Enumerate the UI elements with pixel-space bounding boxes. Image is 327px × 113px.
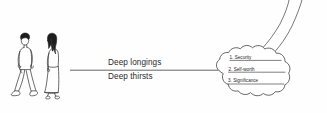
cloud-item-significance: 3. Significance (228, 78, 258, 83)
woman-waist (48, 66, 58, 67)
cloud-item-security: 1. Security (230, 55, 252, 60)
woman-leg-back (47, 93, 48, 96)
man-hand-front (31, 65, 34, 68)
man-shoe-front (30, 91, 38, 96)
man-head (21, 39, 29, 46)
man-leg-back-2 (19, 70, 25, 91)
diagram-canvas: Deep longings Deep thirsts 1. Security 2… (0, 0, 327, 113)
woman-leg-front (55, 93, 56, 96)
label-deep-longings: Deep longings (108, 58, 161, 67)
woman-dress (45, 48, 59, 92)
woman-shoe-back (46, 96, 51, 99)
man-leg-front-2 (30, 70, 36, 91)
diagram-artwork (0, 0, 327, 113)
man-hair (20, 33, 29, 39)
man-shoe-back (11, 91, 20, 96)
man-leg-front (26, 71, 31, 92)
woman-hair (47, 33, 56, 54)
woman-shoe-front (55, 96, 60, 99)
cloud-item-self-worth: 2. Self-worth (229, 67, 255, 72)
label-deep-thirsts: Deep thirsts (108, 72, 153, 81)
man-walking-figure (11, 33, 37, 96)
woman-walking-figure (45, 33, 60, 99)
